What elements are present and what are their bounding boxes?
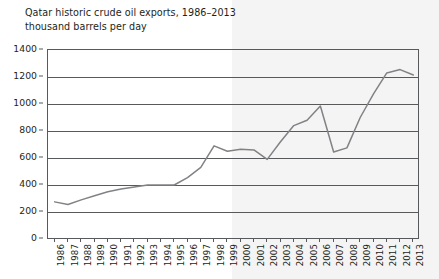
x-axis-line (47, 238, 419, 239)
x-tick-label: 1989 (97, 244, 106, 266)
series-line-chart (48, 50, 420, 239)
x-tick-mark (266, 238, 267, 242)
x-tick-mark (200, 238, 201, 242)
x-tick-mark (94, 238, 95, 242)
x-tick-label: 1999 (230, 244, 239, 266)
y-tick-label: 1400 (13, 44, 37, 53)
y-tick-mark (39, 76, 43, 77)
y-tick-label: 400 (19, 179, 37, 188)
y-tick-label: 1000 (13, 98, 37, 107)
x-tick-mark (226, 238, 227, 242)
x-tick-label: 2013 (416, 244, 425, 266)
x-tick-label: 2005 (310, 244, 319, 266)
x-tick-mark (359, 238, 360, 242)
y-tick-label: 600 (19, 152, 37, 161)
x-tick-mark (54, 238, 55, 242)
x-tick-mark (412, 238, 413, 242)
x-tick-mark (147, 238, 148, 242)
y-tick-mark (39, 184, 43, 185)
x-tick-mark (213, 238, 214, 242)
y-tick-mark (39, 130, 43, 131)
y-tick-mark (39, 211, 43, 212)
chart-title: Qatar historic crude oil exports, 1986–2… (25, 6, 425, 20)
x-tick-mark (399, 238, 400, 242)
x-tick-mark (319, 238, 320, 242)
x-tick-mark (373, 238, 374, 242)
x-tick-label: 2012 (403, 244, 412, 266)
x-tick-mark (173, 238, 174, 242)
x-tick-label: 1997 (203, 244, 212, 266)
x-tick-mark (280, 238, 281, 242)
x-tick-label: 2003 (283, 244, 292, 266)
x-tick-mark (253, 238, 254, 242)
x-tick-mark (306, 238, 307, 242)
x-tick-label: 1988 (84, 244, 93, 266)
x-tick-label: 2006 (323, 244, 332, 266)
x-tick-label: 1986 (57, 244, 66, 266)
x-tick-label: 2004 (296, 244, 305, 266)
x-tick-label: 1998 (217, 244, 226, 266)
y-tick-mark (39, 103, 43, 104)
x-tick-label: 1991 (124, 244, 133, 266)
x-tick-label: 1995 (177, 244, 186, 266)
x-tick-label: 2007 (336, 244, 345, 266)
chart-figure: Qatar historic crude oil exports, 1986–2… (0, 0, 439, 279)
x-tick-mark (293, 238, 294, 242)
y-tick-label: 800 (19, 125, 37, 134)
x-tick-mark (346, 238, 347, 242)
x-tick-mark (333, 238, 334, 242)
y-tick-label: 0 (31, 233, 37, 242)
x-tick-label: 2011 (389, 244, 398, 266)
x-tick-label: 2010 (376, 244, 385, 266)
x-tick-mark (133, 238, 134, 242)
chart-subtitle: thousand barrels per day (25, 20, 425, 34)
x-tick-label: 2001 (257, 244, 266, 266)
x-tick-label: 2008 (350, 244, 359, 266)
x-tick-mark (80, 238, 81, 242)
plot-area (47, 49, 419, 238)
y-tick-mark (39, 157, 43, 158)
y-axis: 0200400600800100012001400 (0, 49, 43, 238)
y-tick-mark (39, 49, 43, 50)
x-tick-mark (120, 238, 121, 242)
y-tick-label: 200 (19, 206, 37, 215)
x-tick-mark (160, 238, 161, 242)
x-tick-label: 1996 (190, 244, 199, 266)
x-tick-label: 1987 (71, 244, 80, 266)
chart-title-block: Qatar historic crude oil exports, 1986–2… (25, 6, 425, 33)
series-line (55, 70, 414, 205)
x-tick-label: 1994 (164, 244, 173, 266)
x-tick-mark (386, 238, 387, 242)
x-tick-mark (240, 238, 241, 242)
x-tick-mark (67, 238, 68, 242)
x-tick-label: 2000 (243, 244, 252, 266)
x-tick-label: 2002 (270, 244, 279, 266)
x-tick-label: 1992 (137, 244, 146, 266)
x-tick-mark (187, 238, 188, 242)
x-tick-label: 1990 (110, 244, 119, 266)
x-tick-label: 2009 (363, 244, 372, 266)
x-tick-mark (107, 238, 108, 242)
x-tick-label: 1993 (150, 244, 159, 266)
y-tick-label: 1200 (13, 71, 37, 80)
y-tick-mark (39, 238, 43, 239)
x-axis: 1986198719881989199019911992199319941995… (47, 238, 419, 279)
